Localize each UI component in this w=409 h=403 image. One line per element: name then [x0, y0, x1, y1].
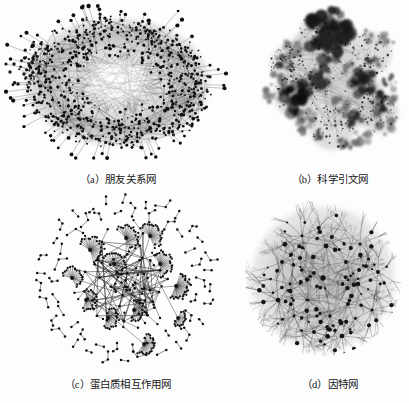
panel-protein-network [28, 192, 224, 368]
figure-root: （a）朋友关系网 （b）科学引文网 [0, 0, 409, 403]
panel-internet-network [238, 192, 408, 368]
protein-network-graphic [28, 192, 224, 368]
panel-citation-network [258, 2, 408, 162]
caption-panel-c: （c）蛋白质相互作用网 [0, 376, 236, 391]
caption-panel-b: （b）科学引文网 [252, 171, 408, 186]
internet-network-graphic [238, 192, 408, 368]
panel-friendship-network [2, 2, 230, 162]
friendship-network-graphic [2, 2, 230, 162]
caption-panel-d: （d）因特网 [252, 376, 408, 391]
citation-network-graphic [258, 2, 408, 162]
caption-panel-a: （a）朋友关系网 [0, 171, 236, 186]
